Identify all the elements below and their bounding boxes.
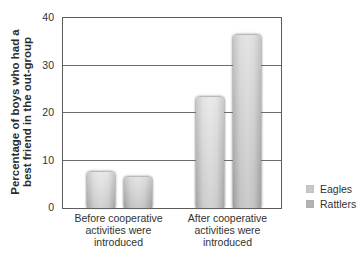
legend-label-rattlers: Rattlers [320,198,356,210]
y-tick-label-30: 30 [2,59,54,71]
bar-eagles-before [87,172,115,208]
y-tick-label-0: 0 [2,201,54,213]
bar-eagles-after [196,97,224,208]
legend-swatch-rattlers [306,200,314,208]
bar-chart-figure: Percentage of boys who had a best friend… [0,0,359,259]
y-tick-label-40: 40 [2,11,54,23]
bar-rattlers-after [233,35,261,208]
legend-item-rattlers: Rattlers [306,198,356,210]
category-label-after: After cooperativeactivities wereintroduc… [163,212,293,248]
legend: EaglesRattlers [306,183,356,210]
legend-swatch-eagles [306,185,314,193]
legend-label-eagles: Eagles [320,183,352,195]
plot-area [62,17,282,209]
y-tick-label-20: 20 [2,106,54,118]
bar-rattlers-before [124,177,152,208]
y-tick-label-10: 10 [2,154,54,166]
legend-item-eagles: Eagles [306,183,356,195]
